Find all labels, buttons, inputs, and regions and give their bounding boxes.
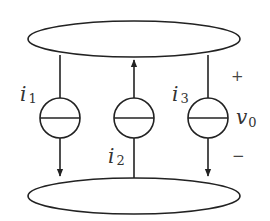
current-source-1 bbox=[40, 55, 80, 176]
current-source-3 bbox=[188, 55, 228, 176]
bottom-node bbox=[28, 178, 240, 214]
label-i1: i1 bbox=[20, 82, 37, 106]
circuit-diagram: i1 i2 i3 v0 + − bbox=[0, 0, 270, 221]
top-node bbox=[28, 21, 240, 57]
label-i3: i3 bbox=[172, 82, 189, 106]
label-v0: v0 bbox=[236, 105, 257, 130]
voltage-minus-sign: − bbox=[232, 147, 245, 165]
voltage-plus-sign: + bbox=[231, 67, 244, 85]
label-i2: i2 bbox=[108, 144, 125, 168]
